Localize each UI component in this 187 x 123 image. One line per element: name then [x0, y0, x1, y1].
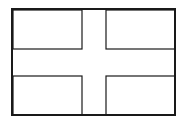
flag-outline-drawing [0, 0, 187, 123]
flag-outer-frame [12, 9, 175, 115]
